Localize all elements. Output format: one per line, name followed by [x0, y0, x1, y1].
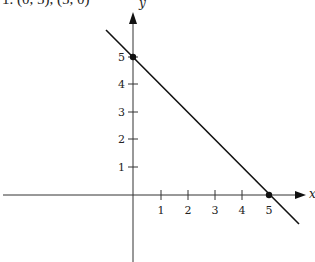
- svg-text:3: 3: [212, 204, 219, 217]
- coordinate-plane: 1 2 3 4 5 1 2 3 4 5 x y: [0, 0, 315, 262]
- svg-text:3: 3: [118, 106, 125, 119]
- svg-text:5: 5: [118, 51, 125, 64]
- svg-text:1: 1: [118, 161, 125, 174]
- y-intercept-point: [130, 54, 136, 60]
- y-axis-label: y: [138, 0, 146, 10]
- svg-text:2: 2: [185, 204, 192, 217]
- x-tick-labels: 1 2 3 4 5: [158, 204, 273, 217]
- svg-text:1: 1: [158, 204, 165, 217]
- svg-text:4: 4: [239, 204, 246, 217]
- x-axis-arrow-icon: [295, 191, 306, 199]
- x-axis-label: x: [309, 187, 315, 201]
- y-tick-labels: 1 2 3 4 5: [118, 51, 125, 174]
- svg-text:5: 5: [266, 204, 273, 217]
- y-axis-arrow-icon: [129, 12, 137, 24]
- x-intercept-point: [266, 192, 272, 198]
- svg-text:2: 2: [118, 133, 125, 146]
- svg-text:4: 4: [118, 78, 125, 91]
